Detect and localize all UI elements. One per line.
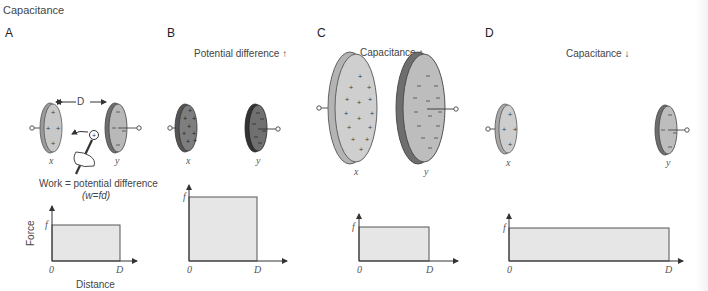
plate-x-c: +++ +++ +++ +++ ++ (317, 52, 377, 164)
y-axis-title: Force (25, 220, 36, 246)
svg-text:+: + (345, 95, 350, 104)
svg-text:+: + (51, 108, 56, 117)
distance-label: D (76, 96, 85, 107)
plate-label-y-d: y (666, 157, 670, 168)
graph-c (359, 214, 458, 261)
plate-y-c (396, 52, 458, 164)
svg-text:+: + (367, 83, 372, 92)
svg-text:+: + (183, 115, 187, 122)
graph-b (189, 185, 287, 261)
svg-text:+: + (193, 137, 197, 144)
y-tick-f-d: f (503, 222, 506, 233)
svg-text:+: + (188, 107, 192, 114)
svg-text:+: + (92, 132, 96, 139)
x-tick-d-b: D (254, 264, 261, 275)
equation-line-2: (w=fd) (82, 190, 110, 201)
plate-label-y-b: y (256, 155, 260, 166)
svg-text:+: + (351, 135, 356, 144)
equation-line-1: Work = potential difference (39, 178, 158, 189)
svg-text:+: + (513, 125, 518, 134)
x-tick-0-b: 0 (187, 264, 192, 275)
plate-x-d: ++++ (486, 104, 518, 154)
plate-label-x-a: x (49, 155, 53, 166)
svg-text:+: + (357, 114, 362, 123)
y-tick-f-c: f (352, 221, 355, 232)
plate-label-x-c: x (354, 166, 358, 177)
x-tick-0-d: 0 (507, 264, 512, 275)
x-tick-d-a: D (116, 264, 123, 275)
x-tick-0-c: 0 (357, 264, 362, 275)
svg-text:+: + (502, 125, 507, 134)
plate-x-a: ++++ (30, 103, 62, 153)
svg-text:+: + (349, 83, 354, 92)
plate-label-x-b: x (186, 155, 190, 166)
svg-text:+: + (508, 140, 513, 149)
plate-y-d (655, 105, 689, 155)
svg-text:+: + (192, 115, 196, 122)
x-tick-0-a: 0 (49, 264, 54, 275)
svg-text:+: + (347, 123, 352, 132)
plate-label-y-a: y (115, 155, 119, 166)
x-axis-title: Distance (76, 279, 115, 290)
svg-text:+: + (508, 110, 513, 119)
svg-text:+: + (370, 109, 375, 118)
y-tick-f-b: f (183, 191, 186, 202)
svg-text:+: + (359, 145, 364, 154)
plate-y-b (245, 104, 280, 152)
svg-text:+: + (182, 130, 186, 137)
svg-text:+: + (51, 139, 56, 148)
plate-x-b: +++ +++ ++ (168, 104, 197, 152)
svg-text:+: + (357, 98, 362, 107)
x-tick-d-c: D (426, 264, 433, 275)
svg-text:+: + (365, 135, 370, 144)
plate-label-x-d: x (506, 157, 510, 168)
diagram-canvas: ++++ + +++ +++ ++ (0, 0, 708, 291)
svg-text:+: + (192, 130, 196, 137)
svg-text:+: + (368, 95, 373, 104)
hand-probe-icon: + (72, 131, 99, 175)
graph-a (52, 206, 137, 261)
page-edge-shadow (696, 0, 708, 291)
svg-text:+: + (358, 72, 363, 81)
svg-text:+: + (56, 124, 61, 133)
graph-d (509, 214, 683, 261)
svg-text:+: + (368, 123, 373, 132)
svg-text:+: + (187, 123, 191, 130)
svg-text:+: + (344, 109, 349, 118)
plate-label-y-c: y (424, 166, 428, 177)
svg-text:+: + (46, 124, 51, 133)
x-tick-d-d: D (665, 264, 672, 275)
plate-y-a (105, 103, 141, 153)
svg-text:+: + (186, 138, 190, 145)
y-tick-f-a: f (45, 219, 48, 230)
